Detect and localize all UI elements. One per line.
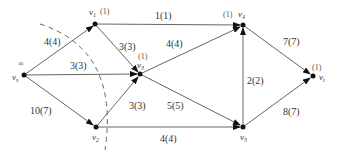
- flow-network-diagram: 4(4) 3(3) 10(7) 1(1) 3(3) 3(3) 4(4) 4(4)…: [0, 0, 337, 161]
- node-v4: [241, 23, 246, 28]
- edge-v3-v5: [140, 74, 240, 125]
- edge-label: 4(4): [166, 38, 183, 50]
- node-mark-v1: (1): [100, 7, 110, 16]
- node-label-v1: v1: [89, 7, 96, 18]
- edge-label: 10(7): [30, 105, 52, 117]
- edge-vs-v3: [24, 74, 137, 75]
- edge-label: 3(3): [70, 60, 87, 72]
- edge-label: 5(5): [167, 100, 184, 112]
- edge-label: 3(3): [129, 100, 146, 112]
- edge-v4-vt: [243, 25, 310, 74]
- edge-v3-v4: [140, 27, 240, 74]
- node-v3: [138, 72, 143, 77]
- edge-v1-v4: [95, 24, 240, 25]
- edge-label: 4(4): [160, 133, 177, 145]
- node-vs: [22, 73, 27, 78]
- edge-vs-v2: [24, 75, 93, 125]
- node-label-vs: vs: [12, 72, 19, 83]
- node-mark-v4: (1): [223, 10, 233, 19]
- node-mark-vt: (1): [312, 63, 322, 72]
- node-label-vt: vt: [319, 72, 325, 83]
- edge-labels: 4(4) 3(3) 10(7) 1(1) 3(3) 3(3) 4(4) 4(4)…: [30, 10, 300, 145]
- node-label-v2: v2: [92, 132, 99, 143]
- node-v1: [93, 22, 98, 27]
- node-mark-v3: (1): [138, 52, 148, 61]
- node-v2: [94, 125, 99, 130]
- node-mark-vs: ∞: [18, 59, 24, 68]
- edge-label: 1(1): [155, 10, 172, 22]
- node-v5: [241, 125, 246, 130]
- node-label-v4: v4: [238, 9, 245, 20]
- edge-label: 3(3): [119, 41, 136, 53]
- edge-label: 2(2): [247, 75, 264, 87]
- edge-label: 7(7): [283, 36, 300, 48]
- node-label-v3: v3: [137, 60, 144, 71]
- edge-label: 8(7): [283, 106, 300, 118]
- node-vt: [311, 74, 316, 79]
- node-label-v5: v5: [240, 132, 247, 143]
- edge-label: 4(4): [44, 36, 61, 48]
